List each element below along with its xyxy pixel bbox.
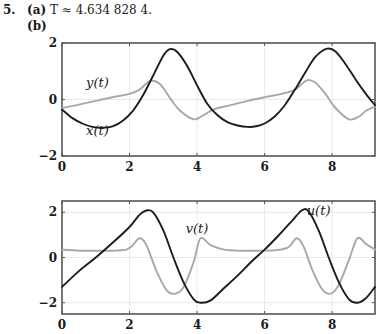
y-tick-label: −2 <box>39 296 57 310</box>
y-tick-label: 2 <box>49 205 57 219</box>
charts-canvas: 02468−202y(t)x(t) 02468−202v(t)u(t) <box>0 0 377 334</box>
y-tick-label: 2 <box>49 36 57 50</box>
curve-label: y(t) <box>85 75 109 90</box>
curve-label: x(t) <box>86 123 109 138</box>
bottom-plot-uv: 02468−202v(t)u(t) <box>39 201 375 332</box>
x-tick-label: 4 <box>193 318 201 332</box>
x-tick-label: 2 <box>125 318 133 332</box>
y-tick-label: 0 <box>49 251 57 265</box>
x-tick-label: 6 <box>260 318 268 332</box>
x-tick-label: 6 <box>260 160 268 174</box>
y-tick-label: 0 <box>49 93 57 107</box>
curve-ut <box>62 209 375 303</box>
curve-xt <box>62 48 375 127</box>
x-tick-label: 2 <box>125 160 133 174</box>
x-tick-label: 8 <box>328 160 336 174</box>
y-tick-label: −2 <box>39 149 57 163</box>
curve-label: v(t) <box>186 221 209 236</box>
top-plot-xy: 02468−202y(t)x(t) <box>39 36 375 174</box>
x-tick-label: 0 <box>58 318 66 332</box>
x-tick-label: 8 <box>328 318 336 332</box>
x-tick-label: 4 <box>193 160 201 174</box>
curve-label: u(t) <box>307 203 331 218</box>
x-tick-label: 0 <box>58 160 66 174</box>
